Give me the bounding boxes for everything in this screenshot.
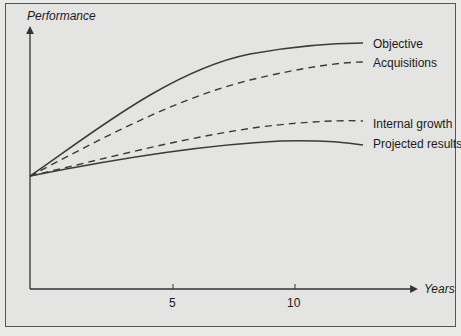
legend-objective: Objective — [373, 37, 423, 51]
chart-svg: Performance Years 5 10 Objective Acquisi… — [0, 0, 461, 336]
legend-projected-results: Projected results — [373, 137, 461, 151]
x-axis-label: Years — [424, 282, 455, 296]
series-projected-results-line — [30, 141, 363, 176]
x-tick-label-5: 5 — [169, 296, 176, 310]
y-axis-label: Performance — [27, 9, 96, 23]
series-objective-line — [30, 43, 363, 176]
x-tick-label-10: 10 — [287, 296, 301, 310]
legend-acquisitions: Acquisitions — [373, 56, 437, 70]
series-acquisitions-line — [30, 62, 363, 176]
legend-internal-growth: Internal growth — [373, 117, 452, 131]
